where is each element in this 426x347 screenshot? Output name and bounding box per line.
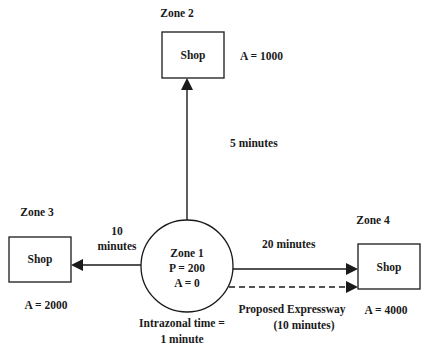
arrowhead-up-icon — [181, 78, 193, 90]
zone1-attraction: A = 0 — [174, 277, 200, 289]
arrowhead-right-icon — [346, 281, 358, 293]
zone4-travel-time: 20 minutes — [262, 238, 316, 250]
zone4-attraction: A = 4000 — [365, 304, 408, 316]
zone1-intrazonal-line2: 1 minute — [160, 333, 203, 345]
arrowhead-right-icon — [346, 263, 358, 275]
zone1-production: P = 200 — [169, 262, 205, 274]
zone2-title: Zone 2 — [160, 7, 194, 19]
zone1-title: Zone 1 — [170, 247, 204, 259]
zone2-shop-label: Shop — [181, 49, 206, 62]
zone-trip-diagram: Zone 2 Shop A = 1000 5 minutes Zone 3 Sh… — [0, 0, 426, 347]
zone3-title: Zone 3 — [20, 206, 54, 218]
expressway-label-line2: (10 minutes) — [273, 319, 334, 332]
expressway-label-line1: Proposed Expressway — [238, 303, 345, 316]
zone1-intrazonal-line1: Intrazonal time = — [139, 317, 225, 329]
zone3-attraction: A = 2000 — [25, 299, 68, 311]
zone3-travel-time-line1: 10 — [111, 225, 123, 237]
zone3-shop-label: Shop — [28, 253, 53, 266]
zone4-title: Zone 4 — [356, 214, 390, 226]
zone4-shop-label: Shop — [377, 261, 402, 274]
zone2-attraction: A = 1000 — [240, 50, 283, 62]
zone2-travel-time: 5 minutes — [230, 137, 278, 149]
arrowhead-left-icon — [71, 259, 83, 271]
zone3-travel-time-line2: minutes — [98, 240, 138, 252]
